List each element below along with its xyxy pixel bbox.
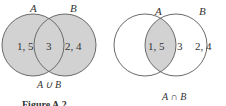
venn-figure: A B 1, 5 3 2, 4 A ∪ B A B 1, 5 3 2, 4 A … bbox=[0, 0, 226, 106]
set-a-label: A bbox=[29, 2, 37, 14]
set-b-label: B bbox=[70, 2, 77, 14]
intersection-caption: A ∩ B bbox=[161, 91, 186, 102]
set-a-label: A bbox=[154, 5, 162, 17]
figure-caption: Figure A.2 bbox=[22, 99, 67, 106]
union-caption: A ∪ B bbox=[36, 79, 61, 90]
only-b-elements: 2, 4 bbox=[195, 40, 212, 52]
only-a-elements: 1, 5 bbox=[148, 40, 165, 52]
intersection-elements: 3 bbox=[46, 40, 52, 52]
set-b-label: B bbox=[199, 5, 206, 17]
intersection-elements: 3 bbox=[177, 40, 183, 52]
union-diagram: A B 1, 5 3 2, 4 A ∪ B bbox=[2, 2, 96, 90]
only-a-elements: 1, 5 bbox=[17, 40, 34, 52]
only-b-elements: 2, 4 bbox=[65, 40, 82, 52]
intersection-diagram: A B 1, 5 3 2, 4 A ∩ B bbox=[114, 5, 212, 102]
